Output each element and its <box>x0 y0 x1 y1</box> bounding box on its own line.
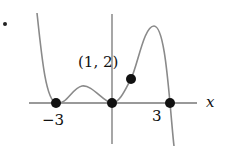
point-label: (1, 2) <box>78 55 118 70</box>
list-bullet <box>3 22 7 26</box>
root-point-neg3 <box>51 98 61 108</box>
root-point-3 <box>165 98 175 108</box>
labeled-point <box>126 74 136 84</box>
tick-label-neg3: −3 <box>42 113 64 128</box>
root-point-origin <box>107 98 117 108</box>
tick-label-3: 3 <box>152 109 162 124</box>
polynomial-graph <box>0 0 226 157</box>
x-axis-label: x <box>206 95 214 110</box>
